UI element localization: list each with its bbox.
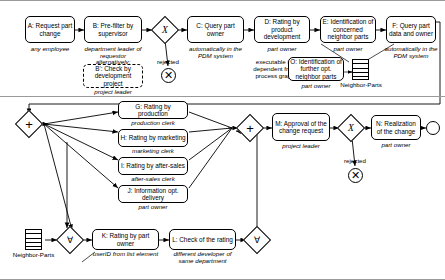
flow-label-rejected-1: rejected xyxy=(145,58,191,65)
end-event-done[interactable] xyxy=(426,121,440,135)
task-N[interactable]: N: Realization of the change xyxy=(371,115,421,140)
task-D[interactable]: D: Rating by product development xyxy=(254,16,310,43)
task-E-role: part owner xyxy=(320,45,376,52)
task-H-role: marketing clerk xyxy=(118,147,188,154)
task-M-label: M: Approval of the change request xyxy=(274,120,328,135)
task-J[interactable]: J: Information opt. delivery xyxy=(118,185,188,203)
gateway-exclusive-1-symbol: X xyxy=(155,20,175,40)
data-store-neighbor-parts-bottom[interactable] xyxy=(25,229,42,250)
task-Bprime-role: project leader xyxy=(83,88,143,95)
task-O[interactable]: O: Identification of further opt. neighb… xyxy=(288,57,344,81)
data-store-bottom-label: Neighbor-Parts xyxy=(12,251,55,258)
end-event-rejected-2[interactable]: ✕ xyxy=(348,168,363,183)
task-C[interactable]: C: Query part owner xyxy=(187,16,244,43)
task-Bprime-label: B': Check by development project xyxy=(85,65,141,87)
task-I[interactable]: I: Rating by after-sales xyxy=(118,157,188,175)
data-store-neighbor-parts-top[interactable] xyxy=(352,59,369,80)
task-M[interactable]: M: Approval of the change request xyxy=(272,113,330,141)
task-O-role: part owner xyxy=(288,82,344,89)
gateway-parallel-join-symbol: + xyxy=(240,118,260,138)
task-L-label: L: Check of the rating xyxy=(172,236,233,243)
task-I-label: I: Rating by after-sales xyxy=(121,162,185,169)
task-A-role: any employee xyxy=(25,45,75,52)
task-B[interactable]: B: Pre-filter by supervisor xyxy=(84,16,142,43)
task-A-label: A: Request part change xyxy=(27,22,73,37)
task-O-label: O: Identification of further opt. neighb… xyxy=(290,58,342,80)
task-G-label: G: Rating by production xyxy=(120,103,186,118)
terminate-x-icon-1: ✕ xyxy=(162,69,175,82)
task-F[interactable]: F: Query part data and owner xyxy=(386,16,436,43)
gateway-exclusive-2-symbol: X xyxy=(341,118,361,138)
task-A[interactable]: A: Request part change xyxy=(25,16,75,43)
task-D-label: D: Rating by product development xyxy=(256,18,308,40)
task-C-label: C: Query part owner xyxy=(189,22,242,37)
flow-label-rejected-2: rejected xyxy=(332,157,378,164)
data-store-top-label: Neighbor-Parts xyxy=(340,81,382,88)
task-I-role: after-sales clerk xyxy=(118,175,188,182)
task-F-label: F: Query part data and owner xyxy=(388,22,434,37)
terminate-x-icon-2: ✕ xyxy=(349,169,362,182)
task-N-role: part owner xyxy=(371,141,421,148)
task-E-label: E: Identification of concerned neighbor … xyxy=(322,18,374,40)
task-K[interactable]: K: Rating by part owner xyxy=(92,229,159,250)
task-E[interactable]: E: Identification of concerned neighbor … xyxy=(320,16,376,43)
task-L[interactable]: L: Check of the rating xyxy=(169,229,236,250)
task-N-label: N: Realization of the change xyxy=(373,120,419,135)
gateway-forall-left-symbol: ∀ xyxy=(60,230,80,250)
task-J-role: part owner xyxy=(118,203,188,210)
task-M-role: project leader xyxy=(272,142,330,149)
task-K-role: userID from list element xyxy=(92,250,159,257)
task-H-label: H: Rating by marketing xyxy=(121,134,186,141)
task-F-role: automatically in the PDM system xyxy=(382,45,440,59)
store-line xyxy=(26,243,41,247)
task-B-label: B: Pre-filter by supervisor xyxy=(86,22,140,37)
task-Bprime[interactable]: B': Check by development project xyxy=(83,64,143,88)
task-C-role: automatically in the PDM system xyxy=(184,45,247,59)
task-H[interactable]: H: Rating by marketing xyxy=(118,129,188,147)
bpmn-diagram: A: Request part change any employee B: P… xyxy=(0,0,445,280)
end-event-rejected-1[interactable]: ✕ xyxy=(161,68,176,83)
task-G[interactable]: G: Rating by production xyxy=(118,101,188,119)
frame-line-mid xyxy=(0,96,445,97)
gateway-forall-right-symbol: ∀ xyxy=(247,230,267,250)
task-L-role: different developer of same department xyxy=(167,250,238,264)
gateway-parallel-split-symbol: + xyxy=(19,114,39,134)
store-line xyxy=(353,73,368,77)
task-K-label: K: Rating by part owner xyxy=(94,232,157,247)
task-G-role: production clerk xyxy=(118,119,188,126)
frame-line-top xyxy=(0,0,445,1)
task-J-label: J: Information opt. delivery xyxy=(120,187,186,202)
task-D-role: part owner xyxy=(254,45,310,52)
